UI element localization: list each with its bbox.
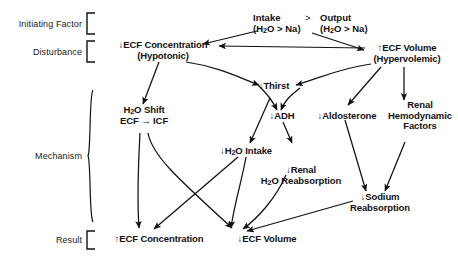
node-h2o-shift: H2O Shift ECF → ICF [105, 105, 183, 127]
node-aldosterone-down: ↓Aldosterone [311, 111, 383, 122]
node-ecf-volume-down: ↓ECF Volume [224, 234, 310, 245]
node-output-detail: (H2O > Na) [320, 23, 368, 34]
node-ecf-concentration-down-line1: ↓ECF Concentration [119, 39, 208, 50]
edge-ecf-volume-to-ecf-concentration [219, 46, 365, 48]
node-ecf-concentration-up: ↑ECF Concentration [100, 234, 218, 245]
node-output-label: Output [320, 12, 351, 23]
flowchart-figure: Initiating Factor Disturbance Mechanism … [0, 0, 458, 260]
node-ecf-volume-up-line2: (Hypervolemic) [357, 54, 457, 65]
node-renal-hemodynamic-line3: Factors [382, 121, 458, 132]
node-ecf-volume-up: ↑ECF Volume (Hypervolemic) [357, 43, 457, 64]
node-output: Output (H2O > Na) [320, 12, 368, 36]
edge-aldosterone-to-sodium-reabsorption [345, 120, 366, 191]
bracket-disturbance [87, 41, 95, 62]
node-h2o-intake-down: ↓H2O Intake [208, 146, 284, 157]
node-comparison-operator: > [303, 12, 313, 23]
node-renal-hemodynamic-factors: Renal Hemodynamic Factors [382, 100, 458, 132]
bracket-mechanism [88, 90, 93, 222]
stage-label-mechanism: Mechanism [0, 151, 82, 161]
node-sodium-reabsorption-line2: Reabsorption [338, 203, 422, 214]
node-sodium-reabsorption-line1: ↓Sodium [361, 191, 400, 202]
edge-h2o-shift-to-ecf-concentration-up [138, 133, 140, 228]
node-intake: Intake (H2O > Na) [253, 12, 301, 36]
node-adh-down: ↓ADH [262, 111, 302, 122]
node-ecf-concentration-down-line2: (Hypotonic) [104, 51, 222, 62]
edge-ecf-concentration-to-h2o-shift [143, 62, 159, 104]
edge-ecf-concentration-to-thirst [186, 62, 259, 85]
node-intake-detail: (H2O > Na) [253, 23, 301, 34]
node-intake-label: Intake [253, 12, 280, 23]
stage-label-disturbance: Disturbance [0, 47, 82, 57]
node-renal-hemodynamic-line1: Renal [407, 99, 432, 110]
node-h2o-shift-line1: H2O Shift [123, 104, 164, 115]
node-ecf-volume-up-line1: ↑ECF Volume [378, 42, 437, 53]
bracket-initiating-factor [87, 13, 95, 34]
node-h2o-shift-line2: ECF → ICF [105, 116, 183, 127]
edge-h2o-intake-to-ecf-volume [231, 157, 246, 228]
edge-renal-hemodynamic-to-sodium-reabsorption [385, 142, 405, 191]
node-renal-h2o-reabsorption-line1: ↓Renal [286, 164, 316, 175]
node-renal-h2o-reabsorption-down: ↓Renal H2O Reabsorption [255, 165, 347, 187]
node-ecf-concentration-down: ↓ECF Concentration (Hypotonic) [104, 40, 222, 61]
stage-label-result: Result [0, 235, 82, 245]
edge-ecf-volume-to-thirst [296, 64, 371, 85]
edge-h2o-intake-to-ecf-concentration-up [154, 157, 238, 229]
bracket-result [87, 231, 95, 249]
stage-label-initiating-factor: Initiating Factor [0, 19, 82, 29]
node-renal-h2o-reabsorption-line2: H2O Reabsorption [255, 176, 347, 187]
edge-adh-to-renal-h2o-reabsorption [283, 122, 292, 143]
node-thirst-down: ↓Thirst [253, 81, 295, 92]
node-sodium-reabsorption-down: ↓Sodium Reabsorption [338, 192, 422, 213]
edge-ecf-volume-to-aldosterone [348, 67, 381, 105]
